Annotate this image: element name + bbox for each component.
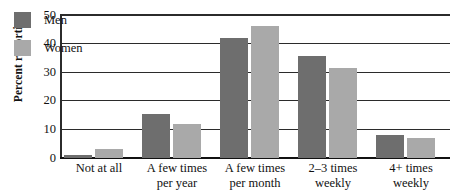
bar-group [294, 15, 372, 158]
legend-item-women: Women [14, 34, 134, 62]
x-label-line1: A few times [225, 161, 285, 175]
bar-women [95, 149, 123, 158]
x-label-line1: A few times [147, 161, 207, 175]
bar-men [298, 56, 326, 158]
legend-label: Men [44, 13, 67, 28]
x-label-line1: 2–3 times [309, 161, 358, 175]
y-tick-10: 10 [32, 123, 56, 136]
x-label-line2: weekly [362, 176, 460, 191]
bar-men [64, 155, 92, 158]
bar-women [173, 124, 201, 158]
bar-women [407, 138, 435, 158]
chart-legend: MenWomen [14, 6, 134, 62]
legend-swatch-icon [14, 40, 31, 56]
legend-swatch-icon [14, 12, 31, 28]
x-label-4: 4+ timesweekly [362, 161, 460, 190]
y-tick-20: 20 [32, 94, 56, 107]
bar-men [376, 135, 404, 158]
legend-label: Women [44, 41, 83, 56]
x-axis-category-labels: Not at allA few timesper yearA few times… [60, 161, 450, 196]
y-tick-30: 30 [32, 66, 56, 79]
bar-women [251, 26, 279, 158]
bar-chart-figure: Percent reporting 01020304050 MenWomen N… [0, 0, 471, 196]
bar-men [142, 114, 170, 158]
legend-item-men: Men [14, 6, 134, 34]
bar-group [372, 15, 450, 158]
x-label-line1: Not at all [76, 161, 123, 175]
bar-group [138, 15, 216, 158]
bar-men [220, 38, 248, 158]
bar-women [329, 68, 357, 158]
x-label-line1: 4+ times [389, 161, 433, 175]
bar-group [216, 15, 294, 158]
